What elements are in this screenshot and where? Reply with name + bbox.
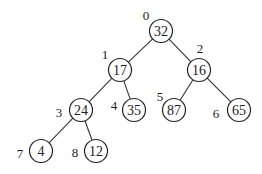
tree-nodes: 32171624358765412 (30, 20, 251, 163)
tree-edge (124, 81, 130, 99)
tree-edge (180, 80, 193, 100)
node-index-label: 5 (157, 89, 164, 104)
tree-edge (85, 121, 92, 140)
node-value: 32 (154, 24, 168, 39)
tree-edges (49, 39, 231, 143)
node-value: 12 (89, 144, 103, 159)
tree-node: 35 (123, 99, 146, 122)
node-value: 16 (192, 63, 206, 78)
tree-node: 4 (30, 140, 53, 163)
node-index-label: 6 (213, 106, 220, 121)
node-index-label: 3 (56, 105, 63, 120)
tree-edge (128, 39, 152, 62)
tree-edge (207, 78, 231, 102)
tree-node: 17 (109, 59, 132, 82)
tree-node: 24 (70, 99, 93, 122)
tree-node: 65 (228, 99, 251, 122)
index-labels: 012345678 (17, 8, 220, 161)
node-value: 24 (74, 103, 88, 118)
node-index-label: 2 (197, 41, 204, 56)
tree-node: 87 (163, 99, 186, 122)
node-value: 87 (167, 103, 181, 118)
node-value: 35 (127, 103, 141, 118)
tree-edge (49, 118, 73, 143)
node-value: 17 (113, 63, 127, 78)
node-index-label: 4 (111, 98, 118, 113)
node-value: 4 (38, 144, 45, 159)
tree-node: 16 (188, 59, 211, 82)
heap-tree-diagram: 32171624358765412 012345678 (0, 0, 262, 174)
tree-edge (89, 78, 112, 102)
node-value: 65 (232, 103, 246, 118)
tree-edge (169, 39, 191, 62)
node-index-label: 1 (102, 47, 109, 62)
tree-node: 12 (85, 140, 108, 163)
node-index-label: 7 (17, 146, 24, 161)
tree-node: 32 (150, 20, 173, 43)
node-index-label: 8 (72, 145, 79, 160)
node-index-label: 0 (143, 8, 150, 23)
